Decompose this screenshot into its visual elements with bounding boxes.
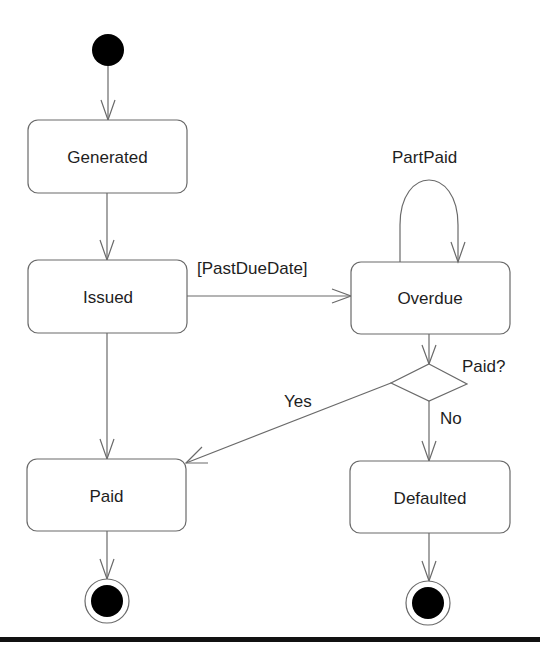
state-label: Issued: [83, 288, 133, 307]
state-generated: Generated: [28, 120, 187, 193]
transition-decision-defaulted: No: [422, 401, 462, 461]
transition-defaulted-final: [422, 533, 436, 581]
bottom-rule: [0, 637, 540, 642]
yes-label: Yes: [284, 392, 312, 411]
initial-node: [92, 34, 124, 66]
state-label: Overdue: [397, 289, 462, 308]
event-label: PartPaid: [392, 148, 457, 167]
transition-overdue-decision: [422, 334, 436, 364]
state-label: Defaulted: [394, 489, 467, 508]
state-label: Paid: [89, 487, 123, 506]
transition-overdue-self: PartPaid: [392, 148, 465, 262]
transition-issued-overdue: [PastDueDate]: [187, 259, 351, 303]
state-overdue: Overdue: [351, 262, 510, 334]
transition-issued-paid: [100, 333, 114, 459]
state-issued: Issued: [28, 260, 187, 333]
no-label: No: [440, 409, 462, 428]
decision-node: Paid?: [391, 357, 505, 401]
state-defaulted: Defaulted: [350, 461, 510, 533]
transition-start-generated: [101, 66, 115, 120]
state-diagram: Generated Issued [PastDueDate] Overdue P…: [0, 0, 540, 657]
state-paid: Paid: [27, 459, 186, 531]
final-node-paid: [85, 579, 129, 623]
transition-paid-final: [100, 531, 114, 579]
transition-decision-paid: Yes: [186, 383, 391, 463]
final-node-defaulted: [406, 581, 450, 625]
decision-label: Paid?: [462, 357, 505, 376]
guard-label: [PastDueDate]: [197, 259, 308, 278]
state-label: Generated: [67, 148, 147, 167]
transition-generated-issued: [100, 193, 114, 260]
